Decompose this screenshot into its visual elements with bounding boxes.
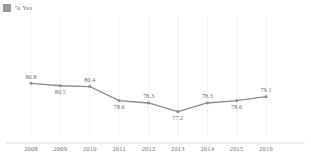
data-point-label: 78.6 bbox=[114, 103, 125, 110]
data-point-label: 80.5 bbox=[55, 88, 66, 95]
gridlines bbox=[31, 16, 266, 138]
x-axis-tick-2012: 2012 bbox=[142, 146, 156, 152]
data-marker bbox=[265, 95, 268, 98]
x-axis-tick-2014: 2014 bbox=[200, 146, 214, 152]
data-point-label: 78.3 bbox=[202, 92, 213, 99]
x-axis-tick-2015: 2015 bbox=[230, 146, 244, 152]
plot-area: 80.880.580.478.678.377.278.378.679.1 bbox=[0, 16, 311, 144]
x-axis-tick-labels: 200820092010201120122013201420152016 bbox=[0, 146, 311, 161]
legend-swatch-icon bbox=[3, 4, 11, 12]
data-point-label: 79.1 bbox=[260, 86, 271, 93]
data-marker bbox=[147, 102, 150, 105]
x-axis-tick-2010: 2010 bbox=[83, 146, 97, 152]
data-marker bbox=[118, 99, 121, 102]
data-point-label: 80.8 bbox=[25, 73, 36, 80]
data-marker bbox=[235, 99, 238, 102]
x-axis-tick-2009: 2009 bbox=[54, 146, 68, 152]
data-point-label: 78.6 bbox=[231, 103, 242, 110]
data-marker bbox=[30, 82, 33, 85]
x-axis-tick-2013: 2013 bbox=[171, 146, 185, 152]
data-marker bbox=[177, 110, 180, 113]
chart-legend: % Yes bbox=[3, 4, 32, 12]
line-chart-svg: 80.880.580.478.678.377.278.378.679.1 bbox=[0, 16, 311, 144]
chart-container: % Yes 80.880.580.478.678.377.278.378.679… bbox=[0, 0, 311, 161]
data-point-label: 78.3 bbox=[143, 92, 154, 99]
x-axis-tick-2016: 2016 bbox=[259, 146, 273, 152]
legend-label: % Yes bbox=[15, 5, 32, 12]
data-marker bbox=[88, 85, 91, 88]
data-point-label: 77.2 bbox=[172, 114, 183, 121]
data-marker bbox=[206, 102, 209, 105]
data-point-label: 80.4 bbox=[84, 76, 95, 83]
data-marker bbox=[59, 84, 62, 87]
x-axis-tick-2011: 2011 bbox=[112, 146, 125, 152]
x-axis-tick-2008: 2008 bbox=[24, 146, 38, 152]
